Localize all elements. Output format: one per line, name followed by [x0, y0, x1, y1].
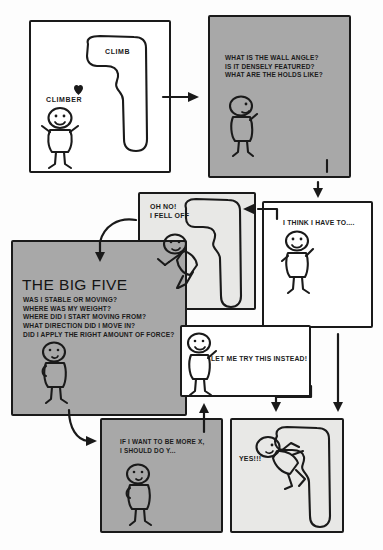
if-x-then-y-caption: IF I WANT TO BE MORE X, I SHOULD DO Y...	[120, 438, 204, 456]
climb-label: CLIMB	[105, 48, 130, 55]
big-five-title: THE BIG FIVE	[22, 276, 128, 294]
assess-line-3: WHAT ARE THE HOLDS LIKE?	[225, 71, 323, 80]
success-panel	[230, 418, 344, 533]
if-x-then-y-panel	[100, 418, 223, 533]
try-this-instead-caption: LET ME TRY THIS INSTEAD!	[211, 355, 307, 363]
big-five-question-list: WAS I STABLE OR MOVING? WHERE WAS MY WEI…	[23, 296, 174, 340]
success-caption: YES!!!	[239, 455, 261, 464]
big-five-q-5: DID I APPLY THE RIGHT AMOUNT OF FORCE?	[23, 331, 174, 340]
assess-line-2: IS IT DENSELY FEATURED?	[225, 63, 323, 72]
fell-off-caption: OH NO! I FELL OFF	[150, 202, 189, 221]
flowchart-page: CLIMBER CLIMB WHAT IS THE WALL ANGLE? IS…	[0, 0, 383, 550]
arrow-assess-to-plan	[313, 182, 323, 198]
assess-the-wall-panel	[208, 15, 351, 178]
big-five-q-4: WHAT DIRECTION DID I MOVE IN?	[23, 322, 174, 331]
big-five-q-1: WAS I STABLE OR MOVING?	[23, 296, 174, 305]
connector-plan-to-success	[333, 334, 343, 412]
big-five-q-3: WHERE DID I START MOVING FROM?	[23, 313, 174, 322]
plan-attempt-caption: I THINK I HAVE TO....	[283, 219, 355, 227]
big-five-q-2: WHERE WAS MY WEIGHT?	[23, 305, 174, 314]
assess-question-list: WHAT IS THE WALL ANGLE? IS IT DENSELY FE…	[225, 54, 323, 80]
assess-line-1: WHAT IS THE WALL ANGLE?	[225, 54, 323, 63]
climber-label: CLIMBER	[46, 96, 82, 103]
